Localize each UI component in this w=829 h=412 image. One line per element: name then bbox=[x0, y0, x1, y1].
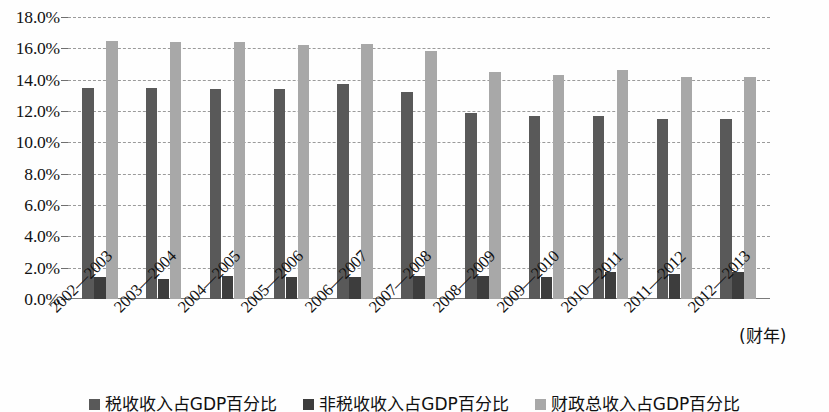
y-axis-tick bbox=[61, 142, 68, 143]
y-axis-tick-label: 16.0% bbox=[16, 38, 60, 59]
legend-label: 财政总收入占GDP百分比 bbox=[551, 396, 741, 412]
y-axis-tick-label: 8.0% bbox=[24, 163, 60, 184]
x-axis-unit-label: (财年) bbox=[739, 322, 786, 347]
y-axis-tick bbox=[61, 236, 68, 237]
y-axis-tick bbox=[61, 48, 68, 49]
y-axis-tick-label: 10.0% bbox=[16, 132, 60, 153]
y-axis-tick-label: 4.0% bbox=[24, 226, 60, 247]
y-axis-tick-label: 6.0% bbox=[24, 195, 60, 216]
y-axis-tick-label: 18.0% bbox=[16, 7, 60, 28]
legend-item[interactable]: 财政总收入占GDP百分比 bbox=[535, 396, 741, 412]
y-axis-tick bbox=[61, 17, 68, 18]
legend-swatch-icon bbox=[303, 399, 314, 410]
x-axis-labels: 2002—20032003—20042004—20052005—20062006… bbox=[68, 299, 770, 369]
legend-label: 税收收入占GDP百分比 bbox=[105, 396, 278, 412]
y-axis-tick bbox=[61, 80, 68, 81]
legend-item[interactable]: 非税收收入占GDP百分比 bbox=[303, 396, 509, 412]
legend-swatch-icon bbox=[89, 399, 100, 410]
chart-legend: 税收收入占GDP百分比非税收收入占GDP百分比财政总收入占GDP百分比 bbox=[0, 396, 829, 412]
bar-chart: 18.0%16.0%14.0%12.0%10.0%8.0%6.0%4.0%2.0… bbox=[0, 0, 829, 412]
y-axis-labels: 18.0%16.0%14.0%12.0%10.0%8.0%6.0%4.0%2.0… bbox=[0, 0, 66, 412]
y-axis-tick-label: 12.0% bbox=[16, 101, 60, 122]
legend-label: 非税收收入占GDP百分比 bbox=[319, 396, 509, 412]
y-axis-tick-label: 2.0% bbox=[24, 257, 60, 278]
bar bbox=[158, 279, 170, 299]
y-axis-tick bbox=[61, 111, 68, 112]
y-axis-tick bbox=[61, 205, 68, 206]
y-axis-tick bbox=[61, 268, 68, 269]
legend-item[interactable]: 税收收入占GDP百分比 bbox=[89, 396, 278, 412]
y-axis-tick bbox=[61, 174, 68, 175]
y-axis-tick-label: 14.0% bbox=[16, 69, 60, 90]
legend-swatch-icon bbox=[535, 399, 546, 410]
